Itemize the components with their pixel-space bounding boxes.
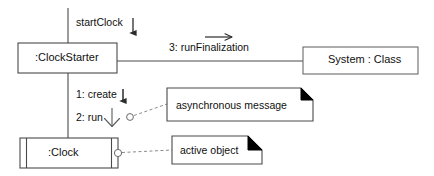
run-finalization-message-label: 3: runFinalization (169, 42, 249, 53)
async-note-leader-line (134, 104, 167, 116)
start-clock-message-label: startClock (76, 17, 123, 28)
create-message-label: 1: create (76, 89, 117, 100)
active-object-note-leader-line (122, 150, 172, 153)
clock-starter-label: :ClockStarter (35, 52, 99, 63)
system-class-label: System : Class (328, 54, 401, 65)
asynchronous-message-note-label: asynchronous message (176, 100, 287, 111)
run-async-arrow-icon (105, 108, 120, 127)
active-object-note-anchor-icon (114, 149, 121, 156)
async-note-anchor-icon (127, 114, 134, 121)
active-object-note-label: active object (180, 145, 238, 156)
uml-collaboration-diagram: startClock :ClockStarter 3: runFinalizat… (0, 0, 434, 176)
run-message-label: 2: run (76, 112, 103, 123)
clock-label: :Clock (48, 147, 79, 158)
